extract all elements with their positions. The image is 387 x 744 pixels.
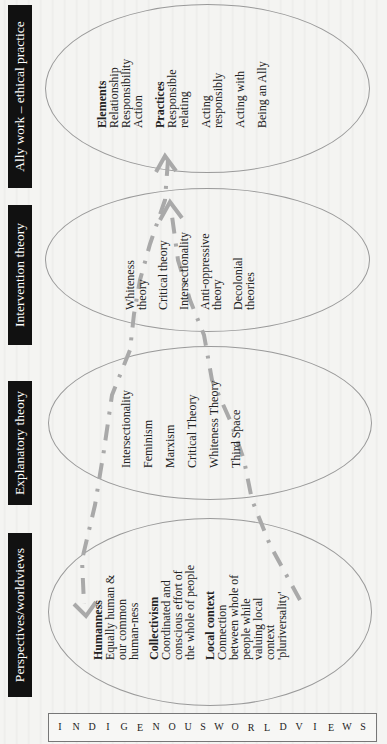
list-item: Acting with	[234, 59, 246, 128]
list-item: relating	[178, 59, 190, 128]
list-item: Critical theory	[157, 232, 169, 310]
list-item: human-ness	[128, 565, 140, 660]
list-item: Critical Theory	[186, 381, 198, 468]
list-item: Intersectionality	[178, 232, 190, 310]
explanatory-content: IntersectionalityFeminismMarxismCritical…	[120, 381, 242, 468]
list-item: Intersectionality	[120, 381, 132, 468]
list-item: theories	[244, 232, 256, 310]
list-item: 'pluriversality'	[276, 565, 288, 660]
list-item: Being an Ally	[256, 59, 268, 128]
list-item: Feminism	[142, 381, 154, 468]
list-item: theory	[136, 232, 148, 310]
list-item: Third Space	[230, 381, 242, 468]
cycle-diagram: INDIGENOUSWORLDVIEWS Perspectives/worldv…	[0, 0, 387, 744]
list-item: theory	[211, 232, 223, 310]
list-item: Marxism	[164, 381, 176, 468]
list-item: the whole of people	[184, 565, 196, 660]
list-item: Whiteness Theory	[208, 381, 220, 468]
ally-work-content: ElementsRelationshipResponsibilityAction…	[96, 59, 268, 128]
list-item: responsibly	[212, 59, 224, 128]
intervention-content: WhitenesstheoryCritical theoryIntersecti…	[124, 232, 256, 310]
list-item: Action	[132, 59, 144, 128]
perspectives-content: HumannessEqually human &our commonhuman-…	[92, 565, 288, 660]
